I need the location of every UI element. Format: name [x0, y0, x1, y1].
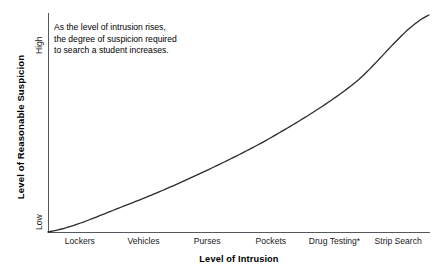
x-tick-label: Vehicles: [127, 235, 159, 247]
x-tick-label: Lockers: [65, 235, 95, 247]
annotation-line-1: As the level of intrusion rises,: [54, 22, 239, 34]
x-tick-labels: LockersVehiclesPursesPocketsDrug Testing…: [48, 235, 430, 248]
x-tick-label: Drug Testing*: [309, 235, 360, 247]
chart-annotation: As the level of intrusion rises, the deg…: [54, 22, 239, 57]
annotation-line-2: the degree of suspicion required: [54, 34, 239, 46]
x-tick-label: Strip Search: [375, 235, 422, 247]
x-tick-label: Purses: [194, 235, 221, 247]
x-tick-label: Pockets: [256, 235, 287, 247]
x-axis-title: Level of Intrusion: [48, 254, 430, 264]
annotation-line-3: to search a student increases.: [54, 45, 239, 57]
chart-container: Level of Reasonable Suspicion High Low A…: [0, 0, 443, 275]
